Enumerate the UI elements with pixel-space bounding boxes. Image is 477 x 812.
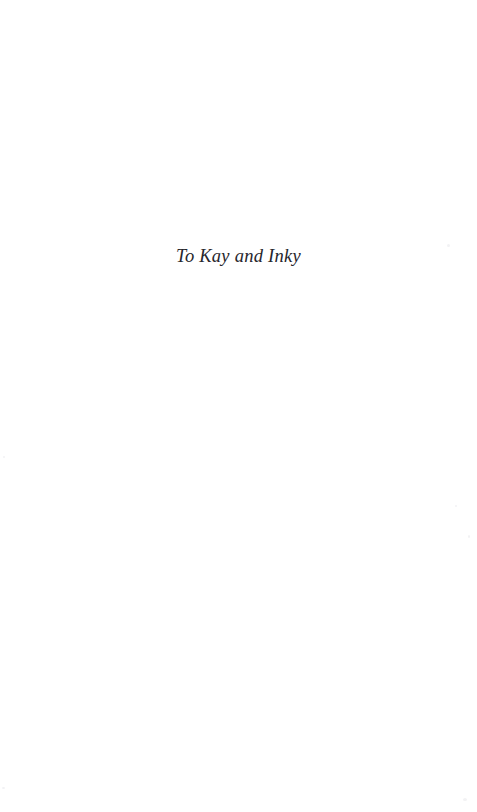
scan-speck — [455, 505, 457, 507]
dedication-block: To Kay and Inky — [0, 243, 477, 269]
scan-speck — [2, 787, 5, 789]
scan-speck — [468, 535, 470, 538]
book-page: To Kay and Inky — [0, 0, 477, 812]
scan-speck — [463, 798, 467, 801]
paper-surface — [0, 0, 477, 812]
scan-speck — [3, 456, 5, 458]
dedication-text: To Kay and Inky — [176, 243, 301, 269]
